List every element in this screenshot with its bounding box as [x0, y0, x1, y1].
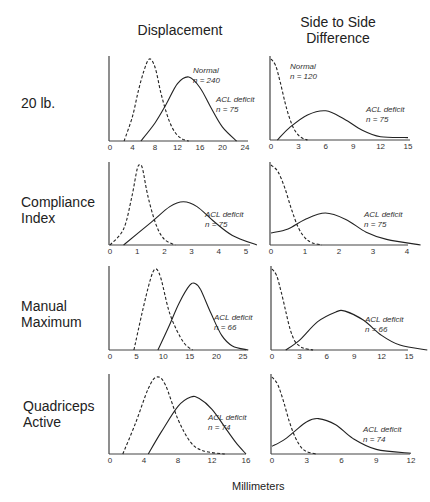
x-tick-label: 0	[108, 247, 113, 256]
sample-size-annotation: n = 75	[205, 220, 228, 229]
x-tick-label: 24	[241, 143, 250, 152]
x-tick-label: 1	[135, 247, 140, 256]
x-tick-label: 0	[108, 352, 113, 361]
normal-curve	[124, 59, 189, 141]
x-tick-label: 6	[339, 456, 344, 465]
series-annotation: Normal	[193, 66, 219, 75]
x-tick-label: 15	[185, 352, 194, 361]
x-tick-label: 2	[337, 247, 342, 256]
x-tick-label: 0	[270, 456, 275, 465]
x-tick-label: 12	[173, 143, 182, 152]
x-tick-label: 3	[371, 247, 376, 256]
x-tick-label: 4	[130, 143, 135, 152]
chart-grid: 04812162024Normaln = 240ACL deficitn = 7…	[0, 0, 430, 502]
chart-panel-1: 04812162024Normaln = 240ACL deficitn = 7…	[108, 56, 256, 152]
x-tick-label: 2	[162, 247, 167, 256]
x-tick-label: 4	[405, 247, 410, 256]
series-annotation: ACL deficit	[364, 315, 404, 324]
sample-size-annotation: n = 75	[216, 105, 239, 114]
x-axis-label: Millimeters	[232, 480, 285, 492]
x-tick-label: 20	[212, 352, 221, 361]
sample-size-annotation: n = 240	[193, 76, 220, 85]
x-tick-label: 4	[217, 247, 222, 256]
acl-deficit-curve	[272, 419, 411, 454]
x-tick-label: 3	[297, 352, 302, 361]
x-tick-label: 12	[376, 142, 385, 151]
series-annotation: Normal	[290, 62, 316, 71]
x-tick-label: 9	[352, 352, 357, 361]
x-tick-label: 0	[270, 352, 275, 361]
x-tick-label: 20	[218, 143, 227, 152]
x-tick-label: 12	[377, 352, 386, 361]
x-tick-label: 3	[305, 456, 310, 465]
x-tick-label: 9	[374, 456, 379, 465]
sample-size-annotation: n = 75	[364, 220, 387, 229]
acl-deficit-curve	[286, 310, 428, 350]
normal-curve	[272, 269, 313, 350]
x-tick-label: 5	[244, 247, 249, 256]
chart-panel-6: 03691215ACL deficitn = 66	[270, 266, 428, 361]
chart-panel-2: 03691215Normaln = 120ACL deficitn = 75	[269, 56, 413, 151]
sample-size-annotation: n = 75	[366, 115, 389, 124]
chart-panel-8: 036912ACL deficitn = 74	[270, 374, 416, 465]
x-tick-label: 0	[269, 142, 274, 151]
chart-panel-4: 01234ACL deficitn = 75	[269, 162, 421, 256]
x-tick-label: 15	[405, 352, 414, 361]
series-annotation: ACL deficit	[207, 413, 247, 422]
series-annotation: ACL deficit	[362, 425, 402, 434]
x-tick-label: 25	[239, 352, 248, 361]
normal-curve	[110, 165, 175, 245]
x-tick-label: 3	[296, 142, 301, 151]
acl-deficit-curve	[148, 396, 246, 454]
x-tick-label: 12	[208, 456, 217, 465]
x-tick-label: 8	[176, 456, 181, 465]
series-annotation: ACL deficit	[215, 95, 255, 104]
series-annotation: ACL deficit	[204, 210, 244, 219]
x-tick-label: 0	[108, 456, 113, 465]
x-tick-label: 0	[269, 247, 274, 256]
sample-size-annotation: n = 66	[214, 323, 237, 332]
x-tick-label: 16	[242, 456, 251, 465]
x-tick-label: 0	[108, 143, 113, 152]
sample-size-annotation: n = 74	[208, 423, 231, 432]
series-annotation: ACL deficit	[365, 105, 405, 114]
sample-size-annotation: n = 120	[290, 72, 317, 81]
acl-deficit-curve	[124, 202, 257, 245]
sample-size-annotation: n = 66	[365, 325, 388, 334]
x-tick-label: 1	[303, 247, 308, 256]
chart-panel-7: 0481216ACL deficitn = 74	[108, 374, 251, 465]
x-tick-label: 12	[407, 456, 416, 465]
x-tick-label: 5	[134, 352, 139, 361]
series-annotation: ACL deficit	[213, 313, 253, 322]
x-tick-label: 16	[196, 143, 205, 152]
x-tick-label: 9	[351, 142, 356, 151]
x-tick-label: 8	[153, 143, 158, 152]
chart-panel-5: 0510152025ACL deficitn = 66	[108, 266, 254, 361]
x-tick-label: 6	[324, 142, 329, 151]
chart-panel-3: 012345ACL deficitn = 75	[108, 162, 257, 256]
normal-curve	[271, 165, 322, 245]
sample-size-annotation: n = 74	[363, 435, 386, 444]
x-tick-label: 6	[325, 352, 330, 361]
x-tick-label: 3	[189, 247, 194, 256]
x-tick-label: 10	[159, 352, 168, 361]
x-tick-label: 15	[404, 142, 413, 151]
x-tick-label: 4	[142, 456, 147, 465]
series-annotation: ACL deficit	[363, 210, 403, 219]
